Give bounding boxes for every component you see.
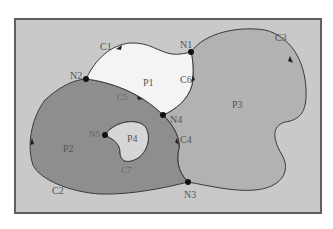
topology-diagram: P1 P2 P3 P4 N1 N2 N3 N4 N5 C1 C2 C3 C4 C… <box>0 0 333 229</box>
label-c6: C6 <box>180 74 192 85</box>
node-n2 <box>83 76 89 82</box>
label-c3: C3 <box>275 32 287 43</box>
label-p4: P4 <box>127 133 138 144</box>
label-c2: C2 <box>52 185 64 196</box>
node-n3 <box>185 179 191 185</box>
label-c1: C1 <box>100 41 112 52</box>
label-p1: P1 <box>143 77 154 88</box>
label-c7: C7 <box>121 165 132 175</box>
label-p3: P3 <box>232 99 243 110</box>
label-n2: N2 <box>70 70 82 81</box>
label-n4: N4 <box>170 114 182 125</box>
label-p2: P2 <box>63 143 74 154</box>
label-n3: N3 <box>184 189 196 200</box>
label-c5: C5 <box>117 92 128 102</box>
label-n5: N5 <box>89 129 100 139</box>
node-n5 <box>102 132 108 138</box>
node-n4 <box>160 112 166 118</box>
label-n1: N1 <box>180 39 192 50</box>
label-c4: C4 <box>180 134 192 145</box>
